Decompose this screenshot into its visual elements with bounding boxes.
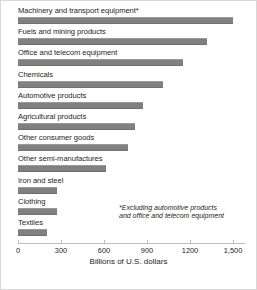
bar-category-label: Agricultural products bbox=[18, 112, 86, 121]
bar-row: Textiles bbox=[18, 227, 252, 236]
bar bbox=[18, 187, 57, 194]
bar-category-label: Iron and steel bbox=[18, 176, 63, 185]
bar-row: Iron and steel bbox=[18, 185, 252, 194]
bar-row: Agricultural products bbox=[18, 121, 252, 130]
bar-row: Automotive products bbox=[18, 100, 252, 109]
bar bbox=[18, 144, 128, 151]
bar bbox=[18, 229, 47, 236]
bar bbox=[18, 123, 135, 130]
x-axis-tick-label: 300 bbox=[55, 246, 67, 255]
x-axis-tick-label: 1,500 bbox=[224, 246, 243, 255]
x-axis-tick-label: 600 bbox=[98, 246, 110, 255]
footnote-annotation: *Excluding automotive productsand office… bbox=[119, 204, 224, 221]
bar-category-label: Clothing bbox=[18, 197, 45, 206]
bar bbox=[18, 102, 143, 109]
bar bbox=[18, 59, 183, 66]
bar-row: Fuels and mining products bbox=[18, 36, 252, 45]
bar-category-label: Textiles bbox=[18, 218, 43, 227]
bar-category-label: Office and telecom equipment bbox=[18, 48, 117, 57]
bar-chart-figure: Machinery and transport equipment*Fuels … bbox=[0, 0, 257, 290]
x-axis-tick-label: 0 bbox=[16, 246, 20, 255]
bar-category-label: Machinery and transport equipment* bbox=[18, 6, 139, 15]
x-axis-tick-label: 1200 bbox=[182, 246, 198, 255]
bar-category-label: Other semi-manufactures bbox=[18, 154, 103, 163]
footnote-line: and office and telecom equipment bbox=[119, 212, 224, 221]
bar bbox=[18, 165, 106, 172]
bar bbox=[18, 208, 57, 215]
bar bbox=[18, 17, 233, 24]
bar bbox=[18, 81, 163, 88]
bar-category-label: Other consumer goods bbox=[18, 133, 94, 142]
bar-category-label: Chemicals bbox=[18, 70, 53, 79]
bar bbox=[18, 38, 207, 45]
x-axis-line bbox=[18, 243, 245, 244]
bar-row: Other semi-manufactures bbox=[18, 163, 252, 172]
bar-category-label: Fuels and mining products bbox=[18, 27, 106, 36]
x-axis-title: Billions of U.S. dollars bbox=[1, 257, 256, 266]
bar-row: Chemicals bbox=[18, 79, 252, 88]
bar-category-label: Automotive products bbox=[18, 91, 86, 100]
bar-row: Machinery and transport equipment* bbox=[18, 15, 252, 24]
bar-row: Other consumer goods bbox=[18, 142, 252, 151]
x-axis-tick-label: 900 bbox=[141, 246, 153, 255]
footnote-line: *Excluding automotive products bbox=[119, 204, 224, 213]
plot-area: Machinery and transport equipment*Fuels … bbox=[1, 1, 256, 289]
bar-row: Office and telecom equipment bbox=[18, 57, 252, 66]
